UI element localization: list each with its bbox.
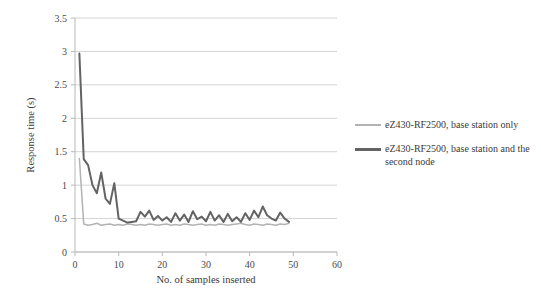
x-axis-tick-labels: 0102030405060 bbox=[73, 259, 343, 270]
x-axis-ticks bbox=[75, 252, 337, 256]
y-tick-label: 0.5 bbox=[55, 213, 68, 224]
y-tick-label: 1.5 bbox=[55, 146, 68, 157]
x-tick-label: 40 bbox=[245, 259, 255, 270]
x-tick-label: 30 bbox=[201, 259, 211, 270]
legend-item: eZ430-RF2500, base station only bbox=[355, 118, 541, 131]
series-lines bbox=[79, 53, 289, 225]
x-tick-label: 10 bbox=[114, 259, 124, 270]
y-tick-label: 3 bbox=[62, 46, 67, 57]
grid-lines bbox=[75, 18, 337, 252]
y-tick-label: 1 bbox=[62, 180, 67, 191]
x-axis-title: No. of samples inserted bbox=[156, 274, 256, 285]
y-axis-title: Response time (s) bbox=[25, 97, 37, 173]
y-tick-label: 0 bbox=[62, 247, 67, 258]
chart-legend: eZ430-RF2500, base station only eZ430-RF… bbox=[355, 118, 541, 179]
y-tick-label: 3.5 bbox=[55, 13, 68, 24]
x-tick-label: 20 bbox=[157, 259, 167, 270]
legend-item-label: eZ430-RF2500, base station and the secon… bbox=[385, 142, 535, 168]
series-line bbox=[79, 53, 289, 222]
legend-swatch-line-icon bbox=[355, 142, 385, 151]
y-tick-label: 2 bbox=[62, 113, 67, 124]
y-axis-ticks bbox=[71, 18, 75, 252]
y-axis-tick-labels: 00.511.522.533.5 bbox=[55, 13, 68, 258]
x-tick-label: 0 bbox=[73, 259, 78, 270]
x-tick-label: 50 bbox=[288, 259, 298, 270]
x-axis: 0102030405060 bbox=[73, 252, 343, 270]
legend-item-label: eZ430-RF2500, base station only bbox=[385, 118, 518, 131]
y-tick-label: 2.5 bbox=[55, 79, 68, 90]
legend-swatch-line-icon bbox=[355, 118, 385, 126]
y-axis: 00.511.522.533.5 bbox=[55, 13, 76, 258]
chart-figure: 00.511.522.533.5 0102030405060 No. of sa… bbox=[0, 0, 541, 303]
x-tick-label: 60 bbox=[332, 259, 342, 270]
legend-item: eZ430-RF2500, base station and the secon… bbox=[355, 142, 541, 168]
